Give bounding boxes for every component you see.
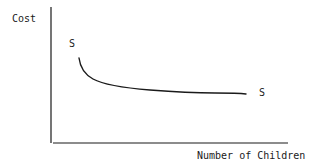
chart-canvas — [0, 0, 321, 168]
y-axis-label: Cost — [12, 14, 36, 24]
curve-end-label: S — [259, 88, 265, 98]
cost-curve — [79, 58, 246, 94]
x-axis-label: Number of Children — [197, 151, 305, 161]
curve-start-label: S — [69, 39, 75, 49]
